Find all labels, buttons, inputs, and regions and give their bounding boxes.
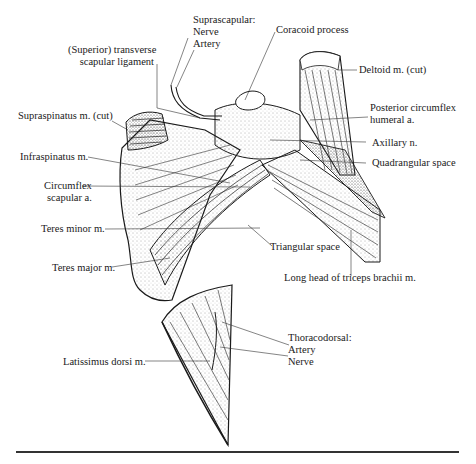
label-transverse-ligament-line1: (Superior) transverse (68, 44, 154, 56)
label-coracoid-process: Coracoid process (276, 24, 349, 36)
anatomy-figure: Suprascapular: Nerve Artery Coracoid pro… (0, 0, 476, 464)
label-thoracodorsal-nerve: Nerve (288, 356, 314, 368)
label-supraspinatus: Supraspinatus m. (cut) (18, 110, 113, 122)
label-thoracodorsal-heading: Thoracodorsal: (288, 332, 352, 344)
label-suprascapular-artery: Artery (193, 38, 220, 50)
label-latissimus-dorsi: Latissimus dorsi m. (63, 356, 146, 368)
label-deltoid: Deltoid m. (cut) (359, 64, 426, 76)
label-transverse-ligament-line2: scapular ligament (68, 56, 154, 68)
label-quadrangular-space: Quadrangular space (372, 157, 456, 169)
label-infraspinatus: Infraspinatus m. (20, 151, 88, 163)
label-axillary-nerve: Axillary n. (372, 137, 418, 149)
label-teres-major: Teres major m. (52, 262, 115, 274)
latissimus-dorsi-muscle (162, 285, 232, 445)
label-teres-minor: Teres minor m. (41, 223, 105, 235)
label-posterior-circumflex-line1: Posterior circumflex (370, 102, 456, 114)
bottom-rule (16, 451, 459, 453)
label-posterior-circumflex-line2: humeral a. (370, 114, 414, 126)
label-circumflex-scapular-line2: scapular a. (47, 192, 92, 204)
suprascapular-vessels (171, 85, 222, 120)
label-suprascapular-nerve: Nerve (193, 26, 219, 38)
humeral-head (215, 103, 300, 159)
label-suprascapular-heading: Suprascapular: (193, 14, 255, 26)
label-circumflex-scapular-line1: Circumflex (44, 180, 92, 192)
label-triangular-space: Triangular space (270, 241, 340, 253)
label-thoracodorsal-artery: Artery (288, 344, 315, 356)
label-long-head-triceps: Long head of triceps brachii m. (284, 272, 416, 284)
